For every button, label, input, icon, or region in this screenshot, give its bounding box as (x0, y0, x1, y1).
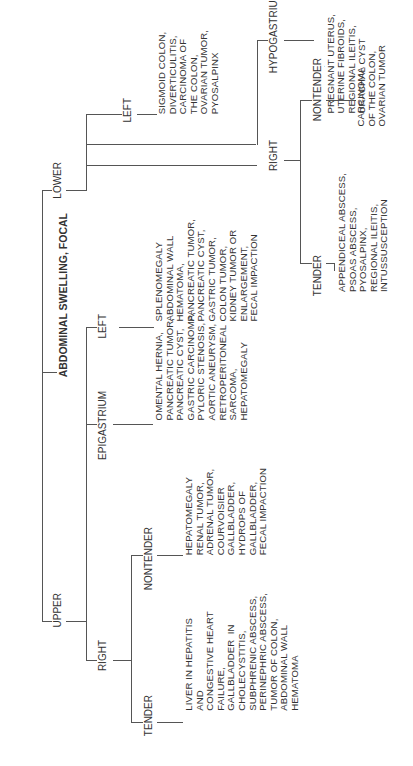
connector (66, 190, 86, 191)
connector (119, 327, 154, 328)
causes-upper-left: SPLENOMEGALY ABDOMINAL WALL HEMATOMA, PA… (154, 219, 260, 321)
connector (42, 190, 43, 622)
node-lower-right-nontender: NONTENDER (312, 55, 324, 124)
connector (300, 263, 312, 264)
connector (86, 165, 257, 166)
connector (86, 424, 87, 661)
connector (157, 722, 183, 723)
node-lower-right-tender: TENDER (312, 252, 324, 299)
connector (131, 555, 143, 556)
connector (326, 263, 334, 264)
connector (334, 263, 335, 271)
causes-upper-right-nontender: HEPATOMEGALY RENAL TUMOR, ADRENAL TUMOR,… (184, 468, 269, 555)
connector (66, 621, 86, 622)
node-lower: LOWER (52, 159, 64, 202)
node-upper-right-tender: TENDER (143, 692, 155, 739)
connector (284, 160, 300, 161)
causes-upper-epigastrium: OMENTAL HERNIA, PANCREATIC TUMOR, PANCRE… (154, 312, 249, 420)
node-upper-left: LEFT (97, 311, 109, 341)
connector (113, 424, 153, 425)
node-upper-epigastrium: EPIGASTRIUM (97, 388, 109, 463)
connector (86, 114, 87, 191)
connector (86, 144, 256, 145)
connector (86, 114, 122, 115)
connector (284, 40, 314, 41)
node-lower-right: RIGHT (268, 137, 280, 174)
root-title: ABDOMINAL SWELLING, FOCAL (57, 210, 69, 380)
node-lower-left: LEFT (122, 95, 134, 125)
connector (131, 555, 132, 723)
connector (131, 722, 143, 723)
node-lower-hypogastrium: HYPOGASTRIUM (268, 0, 280, 76)
node-upper: UPPER (52, 590, 64, 630)
causes-lower-right-nontender: CARCINOMA OF THE COLON, OVARIAN TUMOR (356, 45, 388, 126)
connector (257, 40, 258, 145)
connector (113, 660, 131, 661)
causes-upper-right-tender: LIVER IN HEPATITIS AND CONGESTIVE HEART … (184, 593, 301, 711)
connector (300, 100, 312, 101)
causes-lower-left: SIGMOID COLON, DIVERTICULITIS, CARCINOMA… (157, 30, 221, 114)
node-upper-right: RIGHT (97, 637, 109, 674)
connector (86, 327, 87, 424)
connector (137, 114, 157, 115)
connector (300, 100, 301, 263)
diagnostic-tree-diagram: ABDOMINAL SWELLING, FOCAL UPPER LOWER RI… (0, 0, 413, 766)
connector (157, 555, 183, 556)
causes-lower-right-tender: APPENDICEAL ABSCESS, PSOAS ABSCESS, PYOS… (337, 173, 390, 292)
node-upper-right-nontender: NONTENDER (143, 524, 155, 593)
